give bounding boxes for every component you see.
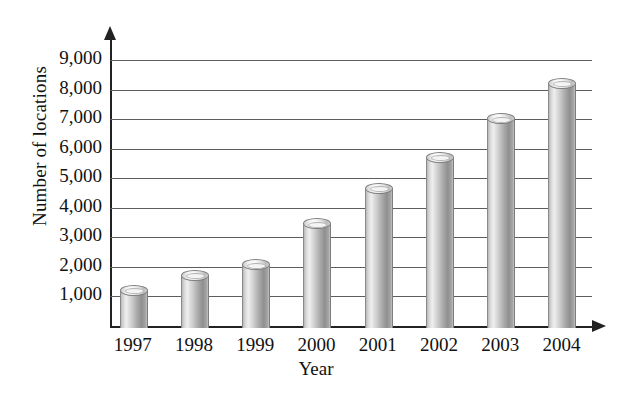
bar-cap <box>548 78 576 89</box>
bar-cap <box>242 259 270 270</box>
x-tick-label: 2001 <box>347 334 409 356</box>
x-axis-title: Year <box>0 358 632 380</box>
bar-cap-highlight <box>492 117 511 123</box>
y-tick-label: 1,000 <box>10 283 102 305</box>
y-tick-label: 4,000 <box>10 195 102 217</box>
bar-cap <box>487 113 515 124</box>
bar-2000 <box>303 223 331 328</box>
plot-area <box>110 32 600 327</box>
bar-1998 <box>181 275 209 328</box>
x-tick-label: 2004 <box>530 334 592 356</box>
bar-cap <box>426 152 454 163</box>
x-tick-label: 2003 <box>469 334 531 356</box>
bar-cap-highlight <box>370 186 389 192</box>
y-tick-label: 2,000 <box>10 254 102 276</box>
bar-cap-highlight <box>186 273 205 279</box>
y-tick-label: 7,000 <box>10 106 102 128</box>
y-tick-label: 6,000 <box>10 136 102 158</box>
bar-cap <box>303 218 331 229</box>
gridline <box>110 149 592 150</box>
bar-cap-highlight <box>125 288 144 294</box>
bar-1997 <box>120 290 148 328</box>
bar-2001 <box>365 188 393 328</box>
bar-cap <box>120 285 148 296</box>
y-tick-label: 3,000 <box>10 224 102 246</box>
gridline <box>110 237 592 238</box>
bar-2002 <box>426 157 454 328</box>
bar-cap-highlight <box>308 222 327 228</box>
bar-2004 <box>548 83 576 328</box>
bar-2003 <box>487 118 515 328</box>
bar-cap-highlight <box>247 263 266 269</box>
bar-cap <box>365 183 393 194</box>
x-tick-label: 1997 <box>102 334 164 356</box>
gridline <box>110 90 592 91</box>
gridline <box>110 267 592 268</box>
x-tick-label: 1998 <box>163 334 225 356</box>
x-tick-label: 2002 <box>408 334 470 356</box>
x-tick-label: 2000 <box>285 334 347 356</box>
y-tick-label: 5,000 <box>10 165 102 187</box>
gridline <box>110 60 592 61</box>
y-tick-label: 9,000 <box>10 47 102 69</box>
gridline <box>110 208 592 209</box>
gridline <box>110 178 592 179</box>
bar-cap <box>181 270 209 281</box>
bar-cap-highlight <box>431 155 450 161</box>
bar-1999 <box>242 264 270 328</box>
gridline <box>110 119 592 120</box>
bar-cap-highlight <box>553 81 572 87</box>
bar-chart: Number of locations Year 1,0002,0003,000… <box>0 0 632 400</box>
x-tick-label: 1999 <box>224 334 286 356</box>
y-tick-label: 8,000 <box>10 77 102 99</box>
